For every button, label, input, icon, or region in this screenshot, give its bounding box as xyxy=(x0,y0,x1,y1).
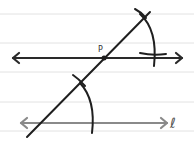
point-p-label: P xyxy=(98,45,103,54)
lower-arc xyxy=(80,83,93,133)
diagram-svg: P ℓ xyxy=(0,0,194,150)
parallel-construction-diagram: P ℓ xyxy=(0,0,194,150)
line-l-label: ℓ xyxy=(169,115,176,131)
ruled-lines xyxy=(0,14,194,131)
transversal-line xyxy=(27,12,150,137)
intersection-arc xyxy=(140,53,166,55)
point-p-dot xyxy=(102,56,107,61)
